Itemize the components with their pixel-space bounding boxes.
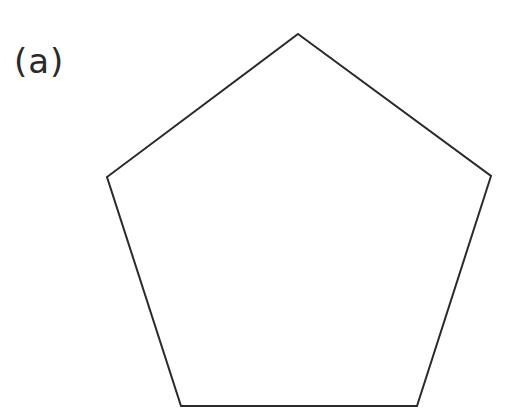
diagram-canvas	[0, 0, 523, 410]
pentagon-shape	[107, 34, 491, 406]
